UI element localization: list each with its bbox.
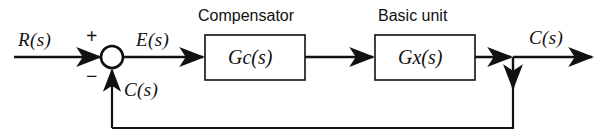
summing-junction-plus-sign: + bbox=[86, 26, 97, 46]
control-block-diagram: R(s) + − E(s) C(s) Compensator Gc(s) Bas… bbox=[0, 0, 609, 139]
output-signal-label: C(s) bbox=[529, 28, 563, 47]
basic-unit-argument: (s) bbox=[421, 46, 442, 68]
compensator-argument: (s) bbox=[251, 46, 272, 68]
basic-unit-title: Basic unit bbox=[378, 8, 447, 24]
compensator-title: Compensator bbox=[198, 8, 294, 24]
basic-unit-g-symbol: G bbox=[398, 46, 412, 68]
basic-unit-subscript: x bbox=[412, 46, 421, 68]
compensator-transfer-function: Gc(s) bbox=[228, 47, 272, 67]
basic-unit-transfer-function: Gx(s) bbox=[398, 47, 442, 67]
output-signal-text: C(s) bbox=[529, 27, 563, 48]
error-signal-text: E(s) bbox=[136, 29, 169, 50]
summing-junction-circle bbox=[101, 46, 123, 68]
input-signal-text: R(s) bbox=[18, 29, 51, 50]
input-signal-label: R(s) bbox=[18, 30, 51, 49]
feedback-signal-label: C(s) bbox=[124, 80, 158, 99]
compensator-g-symbol: G bbox=[228, 46, 242, 68]
compensator-subscript: c bbox=[242, 46, 251, 68]
error-signal-label: E(s) bbox=[136, 30, 169, 49]
summing-junction-minus-sign: − bbox=[86, 66, 97, 86]
feedback-signal-text: C(s) bbox=[124, 79, 158, 100]
